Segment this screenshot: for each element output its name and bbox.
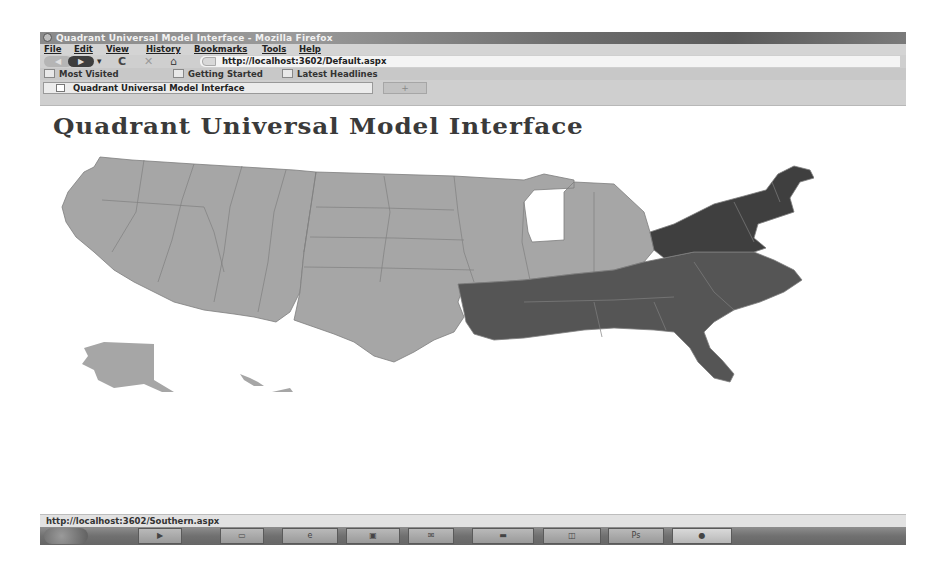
url-input[interactable]: http://localhost:3602/Default.aspx (222, 56, 386, 67)
site-identity-icon[interactable] (202, 57, 216, 66)
media-player-icon: ▶ (157, 531, 163, 540)
window-title: Quadrant Universal Model Interface - Moz… (56, 32, 333, 44)
plus-icon: + (401, 83, 409, 93)
menu-help[interactable]: Help (299, 44, 321, 55)
firefox-icon: ● (699, 531, 706, 540)
taskbar-wmp[interactable]: ▬ (472, 528, 534, 544)
map-region-hawaii[interactable] (240, 374, 296, 392)
map-region-northeastern[interactable] (650, 166, 814, 258)
app-icon: ▣ (369, 531, 377, 540)
menu-file[interactable]: File (44, 44, 61, 55)
app2-icon: ◫ (568, 531, 576, 540)
menu-view[interactable]: View (106, 44, 129, 55)
explorer-icon: ▭ (238, 531, 246, 540)
taskbar-explorer[interactable]: ▭ (220, 528, 264, 544)
menu-bookmarks[interactable]: Bookmarks (194, 44, 247, 55)
forward-button[interactable]: ▶ (68, 56, 94, 67)
bookmark-getting-started[interactable]: Getting Started (173, 68, 263, 80)
tab-strip: Quadrant Universal Model Interface + (40, 80, 906, 106)
rss-folder-icon (44, 69, 55, 78)
reload-icon[interactable]: C (118, 55, 126, 68)
windows-taskbar: ▶ ▭ e ▣ ✉ ▬ ◫ Ps ● (40, 527, 906, 545)
taskbar-app[interactable]: ▣ (346, 528, 400, 544)
taskbar-photoshop[interactable]: Ps (608, 528, 664, 544)
ie-icon: e (308, 531, 313, 540)
us-region-map (54, 152, 814, 392)
page-icon (173, 69, 184, 78)
photoshop-icon: Ps (632, 531, 641, 540)
map-region-alaska[interactable] (82, 342, 174, 392)
page-title: Quadrant Universal Model Interface (53, 113, 584, 139)
navigation-toolbar: ◀ ▶ ▾ C ✕ ⌂ http://localhost:3602/Defaul… (40, 55, 906, 68)
taskbar-ie[interactable]: e (282, 528, 338, 544)
menu-tools[interactable]: Tools (262, 44, 286, 55)
bookmark-latest-headlines[interactable]: Latest Headlines (282, 68, 377, 80)
status-bar: http://localhost:3602/Southern.aspx (40, 514, 906, 528)
new-tab-button[interactable]: + (383, 82, 427, 94)
home-icon[interactable]: ⌂ (170, 55, 177, 68)
mail-icon: ✉ (428, 531, 435, 540)
url-bar[interactable]: http://localhost:3602/Default.aspx (200, 56, 900, 67)
stop-icon[interactable]: ✕ (144, 55, 153, 68)
title-bar: Quadrant Universal Model Interface - Moz… (40, 32, 906, 44)
back-arrow-icon: ◀ (55, 57, 61, 66)
history-dropdown-icon[interactable]: ▾ (97, 55, 102, 68)
wmp-icon: ▬ (499, 531, 507, 540)
firefox-icon (43, 33, 52, 42)
forward-arrow-icon: ▶ (78, 57, 84, 66)
bookmarks-toolbar: Most Visited Getting Started Latest Head… (40, 68, 906, 80)
bookmark-most-visited[interactable]: Most Visited (44, 68, 119, 80)
tab-quadrant[interactable]: Quadrant Universal Model Interface (43, 82, 373, 94)
menu-edit[interactable]: Edit (74, 44, 93, 55)
start-button[interactable] (44, 528, 88, 544)
menu-bar: File Edit View History Bookmarks Tools H… (40, 44, 906, 55)
browser-window: Quadrant Universal Model Interface - Moz… (40, 32, 906, 545)
taskbar-firefox[interactable]: ● (672, 528, 732, 544)
taskbar-mail[interactable]: ✉ (408, 528, 454, 544)
menu-history[interactable]: History (146, 44, 181, 55)
page-favicon-icon (56, 84, 65, 92)
rss-icon (282, 69, 293, 78)
taskbar-media-player[interactable]: ▶ (138, 528, 182, 544)
map-region-western[interactable] (62, 157, 316, 322)
tab-label: Quadrant Universal Model Interface (73, 83, 245, 93)
taskbar-app2[interactable]: ◫ (543, 528, 601, 544)
